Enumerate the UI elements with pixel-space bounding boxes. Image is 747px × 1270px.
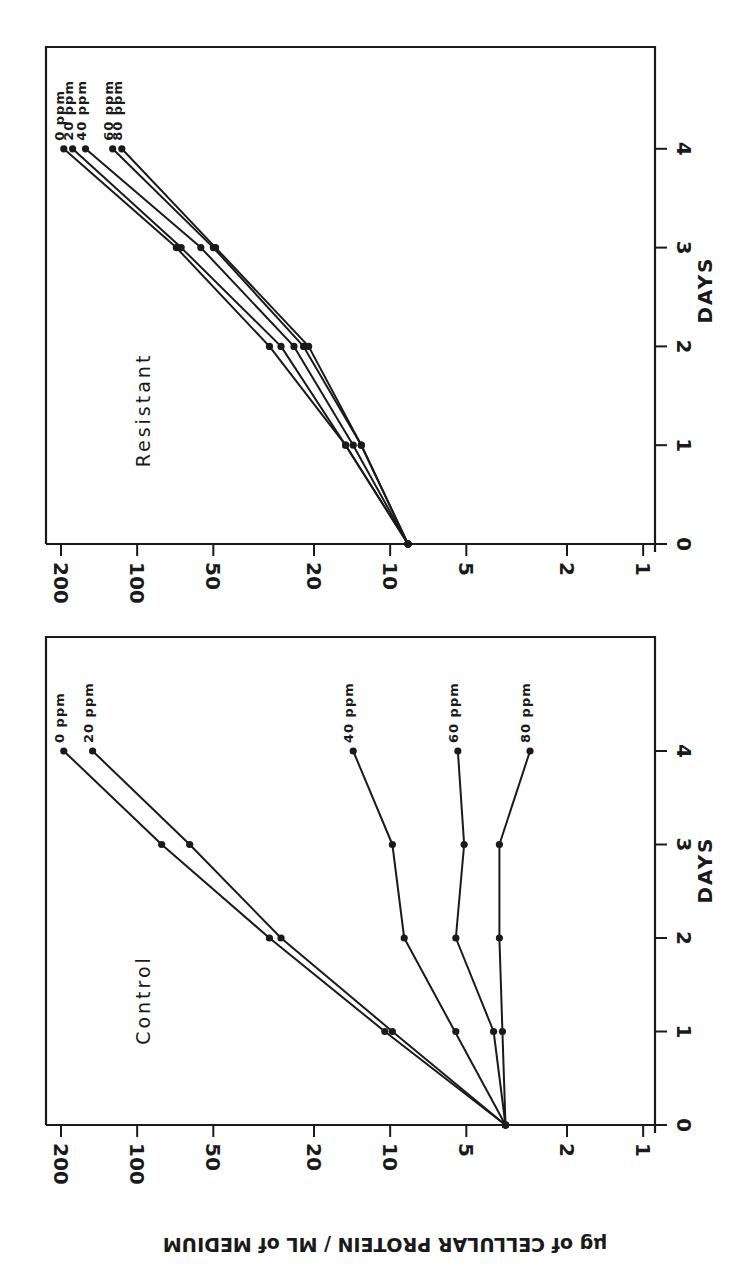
- data-point: [350, 747, 357, 754]
- days-axis-title: DAYS: [693, 256, 717, 323]
- data-point: [454, 747, 461, 754]
- data-point: [526, 747, 533, 754]
- series-line: [64, 751, 506, 1125]
- series-line: [64, 149, 408, 544]
- data-point: [499, 1028, 506, 1035]
- series-line: [93, 751, 506, 1125]
- panel-title: Resistant: [132, 353, 154, 468]
- log-axis-tick-label: 200: [49, 562, 73, 604]
- data-point: [305, 343, 312, 350]
- data-point: [461, 841, 468, 848]
- log-axis-tick-label: 10: [378, 1143, 402, 1171]
- data-point: [197, 244, 204, 251]
- log-axis-tick-label: 200: [49, 1143, 73, 1185]
- panel-control: 12510205010020001234DAYSControl0 ppm20 p…: [46, 637, 717, 1185]
- data-point: [266, 934, 273, 941]
- data-point: [109, 145, 116, 152]
- data-point: [89, 747, 96, 754]
- log-axis-tick-label: 50: [201, 1143, 225, 1171]
- data-point: [342, 442, 349, 449]
- data-point: [381, 1028, 388, 1035]
- data-point: [401, 934, 408, 941]
- data-point: [118, 145, 125, 152]
- log-axis-tick-label: 100: [125, 562, 149, 604]
- series-line: [122, 149, 408, 544]
- data-point: [60, 747, 67, 754]
- series-0-ppm: 0 ppm: [52, 692, 509, 1128]
- days-axis-tick-label: 0: [672, 1118, 696, 1132]
- log-axis-tick-label: 20: [302, 562, 326, 590]
- data-point: [502, 1121, 509, 1128]
- log-axis-tick-label: 20: [302, 1143, 326, 1171]
- log-axis-tick-label: 2: [555, 1143, 579, 1157]
- days-axis-tick-label: 0: [672, 537, 696, 551]
- data-point: [496, 841, 503, 848]
- series-end-label: 0 ppm: [52, 692, 67, 743]
- log-axis-tick-label: 5: [454, 1143, 478, 1157]
- data-point: [389, 1028, 396, 1035]
- data-point: [69, 145, 76, 152]
- series-line: [353, 751, 505, 1125]
- days-axis-tick-label: 4: [672, 142, 696, 156]
- days-axis-tick-label: 3: [672, 241, 696, 255]
- series-line: [499, 751, 530, 1125]
- figure-canvas: 12510205010020001234DAYSResistant0 ppm20…: [0, 0, 747, 1270]
- series-end-label: 20 ppm: [81, 682, 96, 743]
- log-axis-tick-label: 50: [201, 562, 225, 590]
- series-line: [113, 149, 408, 544]
- log-axis-tick-label: 10: [378, 562, 402, 590]
- data-point: [212, 244, 219, 251]
- data-point: [350, 442, 357, 449]
- series-end-label: 40 ppm: [74, 80, 89, 141]
- data-point: [389, 841, 396, 848]
- series-end-label: 80 ppm: [110, 80, 125, 141]
- data-point: [277, 934, 284, 941]
- data-point: [60, 145, 67, 152]
- days-axis-tick-label: 2: [672, 339, 696, 353]
- series-20-ppm: 20 ppm: [81, 682, 510, 1128]
- days-axis-tick-label: 1: [672, 1025, 696, 1039]
- data-point: [452, 1028, 459, 1035]
- log-axis-tick-label: 1: [631, 562, 655, 576]
- series-line: [86, 149, 408, 544]
- log-axis-tick-label: 5: [454, 562, 478, 576]
- log-axis-tick-label: 2: [555, 562, 579, 576]
- data-point: [82, 145, 89, 152]
- series-end-label: 60 ppm: [446, 682, 461, 743]
- data-point: [290, 343, 297, 350]
- log-axis-tick-label: 1: [631, 1143, 655, 1157]
- data-point: [490, 1028, 497, 1035]
- days-axis-tick-label: 1: [672, 438, 696, 452]
- data-point: [266, 343, 273, 350]
- series-80-ppm: 80 ppm: [496, 682, 534, 1128]
- data-point: [452, 934, 459, 941]
- series-end-label: 40 ppm: [341, 682, 356, 743]
- days-axis-tick-label: 4: [672, 744, 696, 758]
- data-point: [358, 442, 365, 449]
- y-axis-title: µg of CELLULAR PROTEIN / ML of MEDIUM: [163, 1234, 608, 1256]
- panel-title: Control: [132, 955, 154, 1045]
- data-point: [158, 841, 165, 848]
- data-point: [277, 343, 284, 350]
- series-0-ppm: 0 ppm: [52, 90, 412, 548]
- panel-resistant: 12510205010020001234DAYSResistant0 ppm20…: [46, 47, 717, 604]
- days-axis-title: DAYS: [693, 836, 717, 903]
- series-end-label: 80 ppm: [518, 682, 533, 743]
- data-point: [404, 540, 411, 547]
- data-point: [496, 934, 503, 941]
- log-axis-tick-label: 100: [125, 1143, 149, 1185]
- plot-frame: [46, 47, 655, 552]
- y-axis-title-group: µg of CELLULAR PROTEIN / ML of MEDIUM: [163, 1234, 608, 1256]
- data-point: [178, 244, 185, 251]
- series-line: [73, 149, 408, 544]
- days-axis-tick-label: 2: [672, 931, 696, 945]
- data-point: [186, 841, 193, 848]
